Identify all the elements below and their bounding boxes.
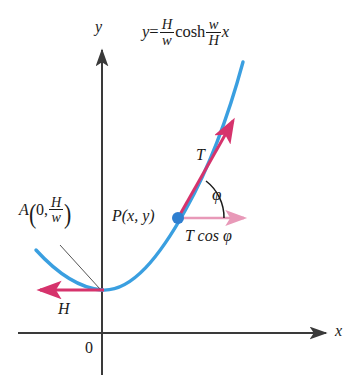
point-A-open-paren: (	[29, 200, 36, 228]
x-axis-label: x	[335, 323, 342, 339]
equation-frac1-numerator: H	[160, 17, 174, 33]
point-A-fraction-H-over-w: Hw	[49, 195, 63, 225]
equation-fraction-w-over-H: wH	[206, 17, 220, 48]
curve-equation-label: y=HwcoshwHx	[142, 17, 229, 48]
tension-arrow	[178, 121, 233, 218]
horizontal-component-label: T cos φ	[185, 228, 232, 244]
equation-variable-x: x	[222, 22, 229, 41]
origin-label: 0	[85, 340, 93, 356]
point-A-label: A(0,Hw)	[19, 195, 72, 228]
angle-phi-label: φ	[212, 186, 221, 203]
equation-cosh: cosh	[175, 22, 205, 41]
equation-frac2-numerator: w	[206, 17, 220, 33]
point-A-frac-denominator: w	[49, 210, 63, 224]
point-A-zero: 0	[36, 201, 44, 218]
y-axis-label: y	[95, 19, 102, 35]
point-P-label: P(x, y)	[112, 208, 155, 224]
figure-canvas	[0, 0, 354, 380]
point-P-marker	[172, 212, 184, 224]
catenary-figure: y=HwcoshwHx y x 0 A(0,Hw) P(x, y) T φ T …	[0, 0, 354, 380]
equation-frac2-denominator: H	[206, 33, 220, 48]
point-A-comma: ,	[44, 201, 48, 218]
point-A-close-paren: )	[64, 200, 71, 228]
catenary-curve	[36, 62, 243, 290]
equation-fraction-H-over-w: Hw	[160, 17, 174, 48]
tension-label: T	[196, 147, 205, 163]
point-A-frac-numerator: H	[49, 195, 63, 210]
equation-equals: =	[149, 22, 158, 41]
horizontal-tension-label: H	[58, 301, 70, 317]
equation-frac1-denominator: w	[160, 33, 174, 48]
point-A-letter: A	[19, 201, 29, 218]
